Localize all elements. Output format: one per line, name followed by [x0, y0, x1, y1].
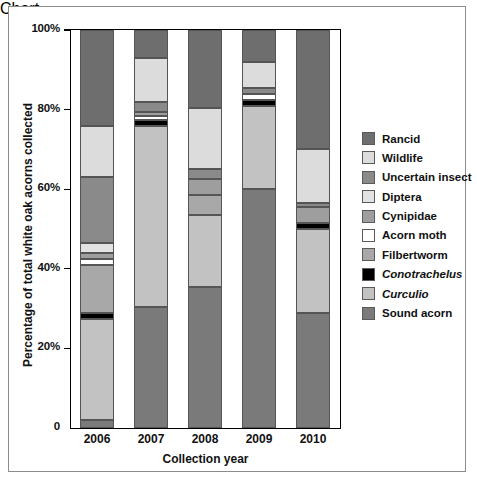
bar-segment: [134, 116, 168, 120]
bar-segment: [80, 253, 114, 259]
bar-segment: [80, 243, 114, 253]
y-axis-tick: [64, 189, 70, 190]
x-axis-tick-label: 2007: [121, 432, 181, 446]
bar-segment: [188, 179, 222, 195]
bar-segment: [134, 58, 168, 102]
legend-item: Acorn moth: [362, 229, 472, 242]
legend-label: Cynipidae: [382, 210, 437, 222]
bar-segment: [134, 30, 168, 58]
bar-segment: [188, 169, 222, 179]
x-axis-title: Collection year: [70, 452, 341, 466]
y-axis-title: Percentage of total white oak acorns col…: [21, 55, 35, 415]
legend-label: Uncertain insect: [382, 171, 471, 183]
legend-label: Sound acorn: [382, 307, 452, 319]
legend-label: Filbertworm: [382, 249, 448, 261]
x-axis-tick-label: 2006: [67, 432, 127, 446]
bar-segment: [134, 120, 168, 126]
bar-segment: [80, 265, 114, 313]
legend-swatch: [362, 132, 375, 145]
legend-label: Conotrachelus: [382, 268, 463, 280]
legend: RancidWildlifeUncertain insectDipteraCyn…: [362, 132, 472, 326]
legend-item: Wildlife: [362, 151, 472, 164]
bar-2010: [296, 30, 330, 428]
legend-swatch: [362, 171, 375, 184]
bar-segment: [296, 229, 330, 313]
bar-segment: [134, 112, 168, 116]
y-axis-tick: [64, 348, 70, 349]
legend-label: Wildlife: [382, 152, 423, 164]
y-axis-tick: [64, 29, 70, 30]
bar-segment: [80, 313, 114, 319]
bar-segment: [242, 189, 276, 428]
bar-segment: [242, 30, 276, 62]
bar-segment: [296, 149, 330, 203]
legend-item: Filbertworm: [362, 248, 472, 261]
y-axis-tick-label: 100%: [8, 22, 60, 34]
bar-segment: [188, 215, 222, 287]
legend-item: Rancid: [362, 132, 472, 145]
legend-swatch: [362, 287, 375, 300]
legend-swatch: [362, 307, 375, 320]
bar-segment: [80, 259, 114, 265]
legend-label: Acorn moth: [382, 229, 447, 241]
x-axis-tick-label: 2009: [229, 432, 289, 446]
bar-segment: [80, 30, 114, 126]
legend-swatch: [362, 210, 375, 223]
legend-swatch: [362, 151, 375, 164]
legend-item: Diptera: [362, 190, 472, 203]
bar-segment: [134, 126, 168, 307]
bar-segment: [80, 319, 114, 420]
legend-label: Diptera: [382, 191, 422, 203]
bar-segment: [80, 420, 114, 428]
bar-segment: [296, 223, 330, 229]
bar-segment: [188, 287, 222, 428]
legend-label: Rancid: [382, 133, 420, 145]
bar-segment: [296, 30, 330, 149]
legend-item: Uncertain insect: [362, 171, 472, 184]
bar-segment: [296, 207, 330, 223]
bar-segment: [188, 108, 222, 170]
bar-segment: [188, 195, 222, 215]
bar-segment: [134, 307, 168, 428]
legend-label: Curculio: [382, 288, 429, 300]
legend-swatch: [362, 190, 375, 203]
bar-segment: [242, 94, 276, 100]
bar-segment: [242, 100, 276, 106]
bar-segment: [134, 102, 168, 112]
legend-item: Cynipidae: [362, 210, 472, 223]
legend-item: Sound acorn: [362, 307, 472, 320]
y-axis-tick: [64, 109, 70, 110]
x-axis-tick-label: 2008: [175, 432, 235, 446]
y-axis-tick: [64, 268, 70, 269]
bar-2009: [242, 30, 276, 428]
bar-segment: [80, 126, 114, 178]
bar-2006: [80, 30, 114, 428]
legend-item: Conotrachelus: [362, 268, 472, 281]
legend-swatch: [362, 229, 375, 242]
x-axis-tick-label: 2010: [283, 432, 343, 446]
bar-segment: [242, 106, 276, 190]
y-axis-tick-label: 0: [8, 420, 60, 432]
bar-2007: [134, 30, 168, 428]
bar-segment: [242, 88, 276, 94]
legend-item: Curculio: [362, 287, 472, 300]
chart-area: 100%80%60%40%20%0 20062007200820092010 C…: [0, 0, 477, 488]
bar-segment: [80, 177, 114, 243]
legend-swatch: [362, 248, 375, 261]
bar-segment: [296, 203, 330, 207]
bar-segment: [242, 62, 276, 88]
bar-segment: [296, 313, 330, 428]
bar-2008: [188, 30, 222, 428]
legend-swatch: [362, 268, 375, 281]
bar-segment: [188, 30, 222, 108]
